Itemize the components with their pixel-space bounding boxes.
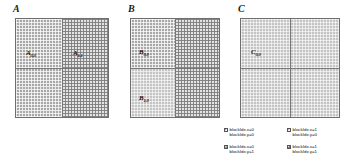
matrix-a-horizontal-divider [16, 68, 108, 69]
legend-entry-3-line2: blockIdx.y=1 [293, 149, 318, 154]
mesh-fill [62, 68, 108, 117]
mesh-fill [175, 19, 219, 68]
matrix-c-quadrant-bottom-right [290, 68, 339, 117]
legend-entry-2-text: blockIdx.x=0 blockIdx.y=1 [230, 144, 255, 155]
panel-b-letter: B [128, 4, 135, 14]
mesh-fill [175, 68, 219, 117]
legend-entry-2-line2: blockIdx.y=1 [230, 149, 255, 154]
legend-swatch-icon [287, 128, 291, 132]
tile-label-b00: B0,0 [139, 49, 149, 58]
matrix-b-quadrant-top-right [175, 19, 219, 68]
mesh-fill [62, 19, 108, 68]
mesh-fill [16, 68, 62, 117]
tile-label-b00-sub: 0,0 [143, 52, 148, 57]
legend-entry-1-line2: blockIdx.y=0 [293, 132, 318, 137]
matrix-b-horizontal-divider [131, 68, 219, 69]
mesh-fill [290, 19, 339, 68]
matrix-a-quadrant-bottom-left [16, 68, 62, 117]
matrix-c [240, 18, 340, 118]
panel-c-letter: C [238, 4, 245, 14]
legend-swatch-icon [287, 145, 291, 149]
tile-label-c00-sub: 0,0 [255, 52, 260, 57]
matrix-c-quadrant-top-left [241, 19, 290, 68]
mesh-fill [241, 19, 290, 68]
legend-entry-3: blockIdx.x=1 blockIdx.y=1 [287, 144, 317, 155]
matrix-c-quadrant-bottom-left [241, 68, 290, 117]
legend: blockIdx.x=0 blockIdx.y=0 blockIdx.x=1 b… [220, 126, 348, 164]
tile-label-c00: C0,0 [251, 49, 261, 58]
tile-label-a00: A0,0 [26, 50, 36, 59]
legend-entry-0-line2: blockIdx.y=0 [230, 132, 255, 137]
panel-a: A A0,0 A1,1 [0, 0, 115, 124]
legend-entry-2: blockIdx.x=0 blockIdx.y=1 [224, 144, 254, 155]
legend-swatch-icon [224, 145, 228, 149]
tile-label-a11-sub: 1,1 [77, 53, 82, 58]
matrix-b-quadrant-bottom-right [175, 68, 219, 117]
legend-entry-3-text: blockIdx.x=1 blockIdx.y=1 [293, 144, 318, 155]
tile-label-a00-sub: 0,0 [30, 53, 35, 58]
matrix-c-quadrant-top-right [290, 19, 339, 68]
legend-entry-0: blockIdx.x=0 blockIdx.y=0 [224, 127, 254, 138]
matrix-a-quadrant-bottom-right [62, 68, 108, 117]
tile-label-b10: B1,0 [139, 95, 149, 104]
mesh-fill [131, 68, 175, 117]
panel-c: C C0,0 [225, 0, 348, 124]
panel-b: B B0,0 B1,0 [115, 0, 225, 124]
legend-swatch-icon [224, 128, 228, 132]
matrix-a-quadrant-top-right [62, 19, 108, 68]
matrix-b-quadrant-bottom-left [131, 68, 175, 117]
legend-entry-1: blockIdx.x=1 blockIdx.y=0 [287, 127, 317, 138]
matrix-tiling-figure: A A0,0 A1,1 B [0, 0, 348, 164]
matrix-b-quadrant-top-left [131, 19, 175, 68]
panel-a-letter: A [13, 4, 20, 14]
mesh-fill [16, 19, 62, 68]
legend-entry-1-text: blockIdx.x=1 blockIdx.y=0 [293, 127, 318, 138]
matrix-a-quadrant-top-left [16, 19, 62, 68]
tile-label-a11: A1,1 [73, 50, 83, 59]
matrix-c-horizontal-divider [241, 68, 339, 69]
legend-entry-0-text: blockIdx.x=0 blockIdx.y=0 [230, 127, 255, 138]
mesh-fill [290, 68, 339, 117]
tile-label-b10-sub: 1,0 [143, 98, 148, 103]
mesh-fill [131, 19, 175, 68]
matrix-a [15, 18, 109, 118]
mesh-fill [241, 68, 290, 117]
